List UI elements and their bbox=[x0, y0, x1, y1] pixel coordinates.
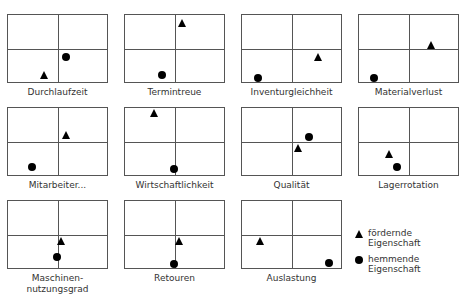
quadrant-panel: Durchlaufzeit bbox=[7, 14, 107, 98]
quadrant-box bbox=[124, 107, 225, 176]
panel-label: Durchlaufzeit bbox=[7, 87, 108, 98]
triangle-marker bbox=[40, 71, 48, 79]
quadrant-panel: Qualität bbox=[241, 107, 341, 191]
triangle-marker bbox=[175, 237, 183, 245]
quadrant-panel: Inventurgleichheit bbox=[241, 14, 341, 98]
triangle-marker bbox=[385, 150, 393, 158]
quadrant-box bbox=[7, 200, 108, 269]
circle-marker bbox=[170, 260, 178, 268]
triangle-marker bbox=[62, 131, 70, 139]
horizontal-axis bbox=[359, 49, 458, 50]
circle-marker bbox=[62, 53, 70, 61]
quadrant-box bbox=[241, 200, 342, 269]
circle-marker bbox=[53, 253, 61, 261]
circle-marker bbox=[158, 71, 166, 79]
circle-marker bbox=[393, 163, 401, 171]
horizontal-axis bbox=[242, 235, 341, 236]
legend-item-promoting: fördernde Eigenschaft bbox=[355, 228, 421, 248]
panel-label: Mitarbeiter... bbox=[7, 180, 108, 191]
quadrant-box bbox=[358, 107, 459, 176]
circle-marker bbox=[170, 165, 178, 173]
legend: fördernde Eigenschaft hemmende Eigenscha… bbox=[355, 228, 421, 280]
horizontal-axis bbox=[125, 49, 224, 50]
horizontal-axis bbox=[125, 142, 224, 143]
quadrant-box bbox=[124, 14, 225, 83]
horizontal-axis bbox=[359, 142, 458, 143]
panel-label: Materialverlust bbox=[358, 87, 459, 98]
horizontal-axis bbox=[125, 235, 224, 236]
quadrant-box bbox=[358, 14, 459, 83]
quadrant-panel: Termintreue bbox=[124, 14, 224, 98]
quadrant-box bbox=[124, 200, 225, 269]
circle-marker bbox=[325, 259, 333, 267]
circle-marker bbox=[28, 163, 36, 171]
circle-marker bbox=[305, 133, 313, 141]
legend-label-promoting: fördernde Eigenschaft bbox=[368, 228, 421, 248]
triangle-marker bbox=[256, 237, 264, 245]
triangle-marker bbox=[178, 19, 186, 27]
panel-label: Termintreue bbox=[124, 87, 225, 98]
panel-label: Inventurgleichheit bbox=[241, 87, 342, 98]
triangle-icon bbox=[355, 230, 363, 238]
panel-label: Lagerrotation bbox=[358, 180, 459, 191]
horizontal-axis bbox=[242, 49, 341, 50]
quadrant-panel: Retouren bbox=[124, 200, 224, 284]
quadrant-box bbox=[241, 107, 342, 176]
horizontal-axis bbox=[8, 142, 107, 143]
quadrant-panel: Materialverlust bbox=[358, 14, 458, 98]
circle-marker bbox=[370, 74, 378, 82]
panel-label: Retouren bbox=[124, 273, 225, 284]
horizontal-axis bbox=[242, 142, 341, 143]
horizontal-axis bbox=[8, 49, 107, 50]
quadrant-panel: Mitarbeiter... bbox=[7, 107, 107, 191]
legend-item-inhibiting: hemmende Eigenschaft bbox=[355, 254, 421, 274]
quadrant-panel: Auslastung bbox=[241, 200, 341, 284]
panel-label: Maschinen- nutzungsgrad bbox=[7, 273, 108, 295]
triangle-marker bbox=[314, 53, 322, 61]
circle-marker bbox=[254, 74, 262, 82]
quadrant-panel: Lagerrotation bbox=[358, 107, 458, 191]
panel-label: Wirtschaftlichkeit bbox=[124, 180, 225, 191]
triangle-marker bbox=[150, 109, 158, 117]
panel-label: Qualität bbox=[241, 180, 342, 191]
circle-icon bbox=[355, 256, 363, 264]
quadrant-box bbox=[7, 107, 108, 176]
quadrant-box bbox=[7, 14, 108, 83]
quadrant-panel: Maschinen- nutzungsgrad bbox=[7, 200, 107, 295]
quadrant-panel: Wirtschaftlichkeit bbox=[124, 107, 224, 191]
quadrant-box bbox=[241, 14, 342, 83]
triangle-marker bbox=[427, 41, 435, 49]
panel-label: Auslastung bbox=[241, 273, 342, 284]
legend-label-inhibiting: hemmende Eigenschaft bbox=[368, 254, 421, 274]
horizontal-axis bbox=[8, 235, 107, 236]
triangle-marker bbox=[294, 144, 302, 152]
triangle-marker bbox=[57, 237, 65, 245]
